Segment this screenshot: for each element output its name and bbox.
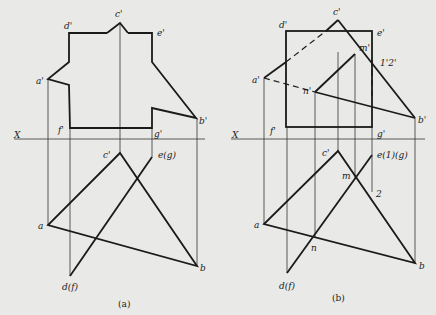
label-c-b: c' — [322, 148, 330, 158]
plane-defg-plan-b — [287, 155, 372, 273]
label-e-prime-a: e' — [157, 28, 165, 38]
label-d-f-a: d(f) — [62, 282, 79, 292]
label-c-prime-b: c' — [333, 7, 341, 17]
plane-defg-plan-a — [70, 157, 152, 276]
label-g-prime-b: g' — [377, 129, 385, 139]
edge-a-prime-c-prime-hidden — [286, 31, 326, 62]
caption-b: (b) — [332, 293, 345, 303]
label-1-prime-2-prime: 1'2' — [380, 58, 396, 68]
front-view-outline-a — [48, 33, 196, 128]
intersection-m-prime-n-prime — [315, 54, 355, 92]
axis-label-x-b: X — [231, 130, 239, 140]
label-b-prime-a: b' — [199, 116, 207, 126]
label-c-prime-a: c' — [115, 9, 123, 19]
label-n: n — [311, 243, 317, 253]
triangle-apex-c-prime-a — [107, 23, 128, 33]
label-b-b: b — [419, 261, 425, 271]
label-a-b: a — [254, 220, 259, 230]
label-e-prime-b: e' — [377, 28, 385, 38]
label-m: m — [342, 171, 351, 181]
edge-a-prime-c-prime-visible — [264, 62, 286, 78]
caption-a: (a) — [118, 299, 130, 309]
label-e-1-g: e(1)(g) — [377, 150, 408, 160]
axis-label-x-a: X — [13, 130, 21, 140]
label-g-prime-a: g' — [154, 129, 162, 139]
figure-a: c' d' e' a' b' f' g' X c' e(g) a b d(f) … — [13, 9, 207, 309]
label-a-prime-a: a' — [36, 76, 44, 86]
label-d-f-b: d(f) — [279, 281, 296, 291]
label-c-a: c' — [103, 150, 111, 160]
label-f-prime-b: f' — [269, 126, 276, 136]
edge-a-prime-c-prime-top — [326, 20, 338, 31]
label-m-prime: m' — [359, 43, 370, 53]
figure-b: c' d' e' m' 1'2' a' n' b' f' g' X c' e(1… — [231, 7, 426, 303]
label-e-g-a: e(g) — [158, 150, 177, 160]
label-b-a: b — [200, 263, 206, 273]
label-n-prime: n' — [303, 86, 311, 96]
label-b-prime-b: b' — [418, 115, 426, 125]
label-a-a: a — [38, 221, 43, 231]
edge-n-prime-b-prime — [315, 92, 415, 118]
label-a-prime-b: a' — [252, 75, 260, 85]
label-f-prime-a: f' — [57, 125, 64, 135]
label-d-prime-a: d' — [64, 21, 72, 31]
label-2: 2 — [375, 189, 382, 199]
label-d-prime-b: d' — [279, 20, 287, 30]
